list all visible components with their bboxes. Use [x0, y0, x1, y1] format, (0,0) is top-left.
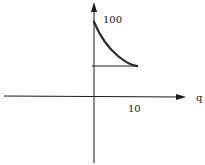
curve-start-point: [93, 21, 95, 23]
x-axis: [4, 94, 186, 100]
x-axis-arrow-label: q: [196, 92, 203, 103]
x-tick-label-10: 10: [128, 103, 141, 114]
curve-end-point: [136, 65, 138, 67]
y-axis-arrow-icon: [91, 2, 97, 12]
y-tick-label-100: 100: [103, 14, 122, 25]
x-axis-arrow-icon: [176, 94, 186, 100]
decay-chart: 100 10 q: [0, 0, 205, 165]
decay-curve: [94, 22, 137, 66]
